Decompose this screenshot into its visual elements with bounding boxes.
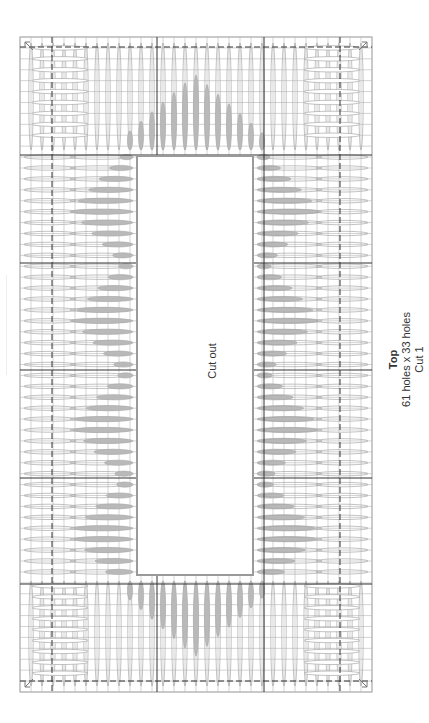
piece-dimensions: 61 holes x 33 holes xyxy=(400,290,413,430)
cutout-label: Cut out xyxy=(206,321,218,401)
piece-cut-count: Cut 1 xyxy=(413,290,426,430)
cutout-area xyxy=(137,156,253,575)
piece-title: Top xyxy=(387,290,400,430)
piece-caption: Top 61 holes x 33 holes Cut 1 xyxy=(387,290,426,430)
